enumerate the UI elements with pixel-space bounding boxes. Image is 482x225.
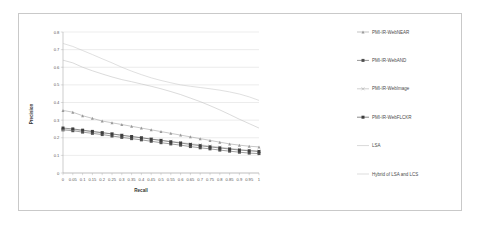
x-axis-title: Recall [134,188,148,193]
x-tick-label: 0.05 [69,177,78,182]
y-tick-label: 0.7 [54,47,60,52]
x-tick-label: 0 [62,177,65,182]
y-tick-label: 0 [57,171,60,176]
plot-area: 00.10.20.30.40.50.60.70.8 00.050.10.150.… [19,14,463,212]
x-tick-label: 0.15 [88,177,97,182]
legend-label: PMI-IR-WebImage [372,86,410,91]
x-tick-label: 0.2 [99,177,105,182]
legend-item-pmi-ir-webimage[interactable]: PMI-IR-WebImage [357,86,410,91]
y-axis-title: Precision [29,103,34,124]
x-tick-label: 0.5 [158,177,164,182]
legend-item-lsa[interactable]: LSA [357,143,381,148]
legend-label: PMI-IR-WebNEAR [372,30,410,35]
chart-container: 00.10.20.30.40.50.60.70.8 00.050.10.150.… [18,13,462,211]
data-series [62,43,261,155]
x-tick-label: 0.6 [178,177,184,182]
legend-item-pmi-ir-webnear[interactable]: PMI-IR-WebNEAR [357,30,410,35]
x-tick-label: 0.25 [108,177,117,182]
legend-label: Hybrid of LSA and LCS [372,172,418,177]
y-tick-label: 0.4 [54,100,60,105]
y-tick-label: 0.6 [54,65,60,70]
legend-label: PMI-IR-WebAND [372,58,407,63]
precision-recall-chart: 00.10.20.30.40.50.60.70.8 00.050.10.150.… [19,14,463,212]
y-tick-label: 0.5 [54,82,60,87]
y-tick-label: 0.3 [54,118,60,123]
x-tick-label: 0.4 [139,177,145,182]
x-tick-label: 0.95 [245,177,254,182]
x-tick-label: 0.55 [167,177,176,182]
x-tick-label: 0.85 [226,177,235,182]
legend-item-hybrid-of-lsa-and-lcs[interactable]: Hybrid of LSA and LCS [357,172,418,177]
y-tick-label: 0.2 [54,135,60,140]
x-tick-label: 0.8 [217,177,223,182]
series-hybrid-of-lsa-and-lcs [63,43,259,100]
x-axis-tick-labels: 00.050.10.150.20.250.30.350.40.450.50.55… [62,177,261,182]
legend-item-pmi-ir-weband[interactable]: PMI-IR-WebAND [357,58,407,63]
x-tick-label: 1 [258,177,261,182]
x-tick-label: 0.75 [206,177,215,182]
y-tick-label: 0.1 [54,153,60,158]
x-tick-label: 0.1 [80,177,86,182]
axes [61,32,259,175]
x-tick-label: 0.65 [186,177,195,182]
x-tick-label: 0.3 [119,177,125,182]
x-tick-label: 0.9 [237,177,243,182]
x-tick-label: 0.35 [128,177,137,182]
x-tick-label: 0.7 [197,177,203,182]
legend-label: PMI-IR-WebFLCKR [372,115,412,120]
x-tick-label: 0.45 [147,177,156,182]
legend-item-pmi-ir-webflckr[interactable]: PMI-IR-WebFLCKR [357,115,412,120]
y-tick-label: 0.8 [54,30,60,35]
legend-label: LSA [372,143,381,148]
y-axis-tick-labels: 00.10.20.30.40.50.60.70.8 [54,30,60,176]
chart-legend: PMI-IR-WebNEARPMI-IR-WebANDPMI-IR-WebIma… [357,30,418,177]
